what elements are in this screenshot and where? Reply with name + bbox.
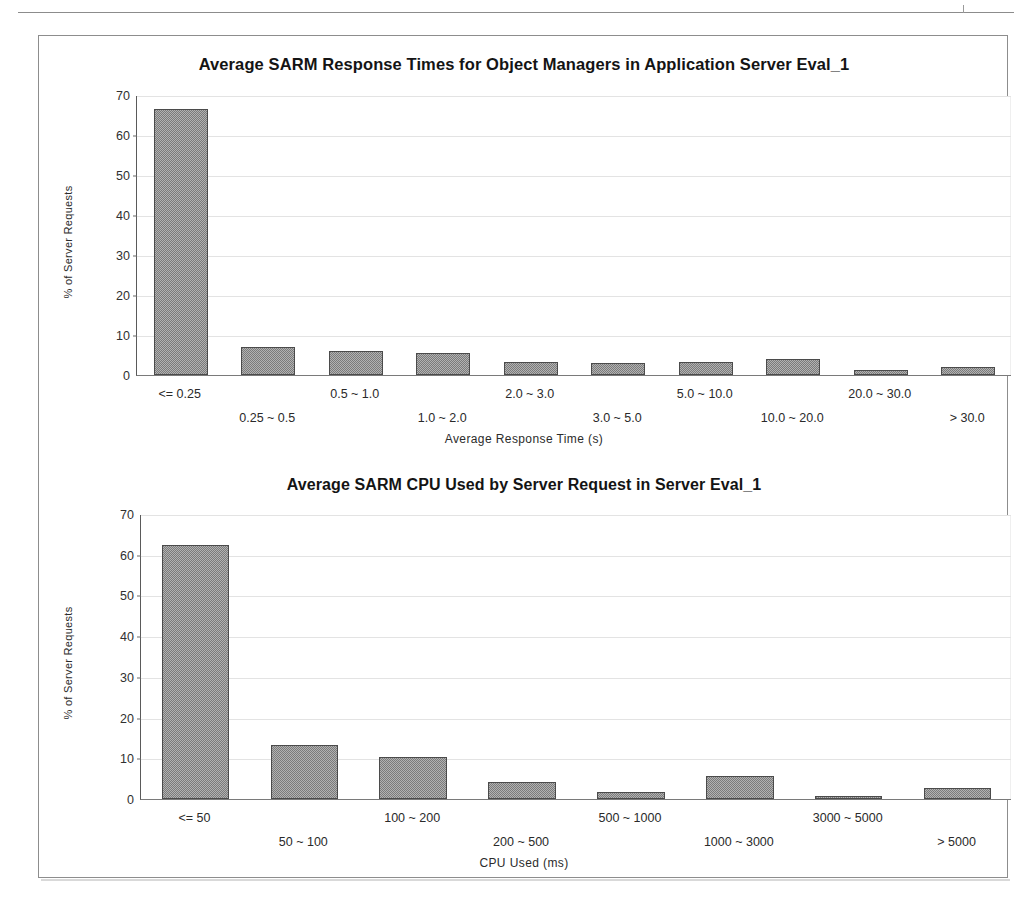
x-tick-label: 3000 ~ 5000 (813, 811, 883, 825)
y-tick-label: 10 (120, 752, 134, 766)
y-tick-mark (137, 718, 141, 719)
gridline (137, 256, 1011, 257)
bar (271, 745, 339, 799)
x-tick-label: 3.0 ~ 5.0 (593, 411, 642, 425)
chart-response-times: Average SARM Response Times for Object M… (39, 44, 1009, 454)
figure-frame: Average SARM Response Times for Object M… (38, 35, 1008, 878)
y-tick-mark (137, 555, 141, 556)
y-tick-mark (133, 256, 137, 257)
gridline (137, 296, 1011, 297)
gridline (137, 136, 1011, 137)
x-tick-label: 0.25 ~ 0.5 (239, 411, 295, 425)
bar (488, 782, 556, 800)
chart-cpu-used: Average SARM CPU Used by Server Request … (39, 456, 1009, 876)
x-tick-label: 10.0 ~ 20.0 (761, 411, 824, 425)
bar (924, 788, 992, 799)
y-tick-label: 0 (127, 793, 134, 807)
x-tick-label: 0.5 ~ 1.0 (330, 387, 379, 401)
gridline (141, 678, 1011, 679)
scan-top-rule (18, 12, 1014, 13)
x-tick-label: > 5000 (937, 835, 976, 849)
chart-title: Average SARM CPU Used by Server Request … (39, 476, 1009, 494)
y-tick-mark (137, 596, 141, 597)
gridline (141, 637, 1011, 638)
y-tick-label: 70 (120, 508, 134, 522)
plot-area: 010203040506070 (140, 515, 1011, 800)
x-axis-title: CPU Used (ms) (39, 856, 1009, 870)
plot-area: 010203040506070 (136, 96, 1011, 376)
bar (241, 347, 295, 375)
y-tick-label: 30 (116, 249, 130, 263)
y-tick-label: 40 (116, 209, 130, 223)
y-tick-mark (133, 296, 137, 297)
plot-right-border (1010, 515, 1011, 799)
x-tick-label: 1.0 ~ 2.0 (418, 411, 467, 425)
chart-title: Average SARM Response Times for Object M… (39, 55, 1009, 74)
bar (679, 362, 733, 375)
y-tick-label: 70 (116, 89, 130, 103)
bar (854, 370, 908, 375)
bar (379, 757, 447, 799)
scan-top-tick (963, 5, 964, 13)
y-tick-label: 20 (116, 289, 130, 303)
x-tick-label: 100 ~ 200 (384, 811, 440, 825)
x-tick-label: 50 ~ 100 (279, 835, 328, 849)
y-tick-mark (133, 336, 137, 337)
gridline (137, 216, 1011, 217)
y-tick-mark (137, 759, 141, 760)
plot-right-border (1010, 96, 1011, 375)
gridline (141, 719, 1011, 720)
bar (154, 109, 208, 375)
x-tick-label: <= 0.25 (159, 387, 201, 401)
x-axis-title: Average Response Time (s) (39, 432, 1009, 446)
x-tick-label: 1000 ~ 3000 (704, 835, 774, 849)
gridline (137, 96, 1011, 97)
bar (591, 363, 645, 375)
y-tick-label: 40 (120, 630, 134, 644)
y-tick-mark (133, 176, 137, 177)
y-tick-label: 0 (123, 369, 130, 383)
y-tick-label: 60 (120, 549, 134, 563)
y-tick-label: 20 (120, 712, 134, 726)
x-tick-label: > 30.0 (950, 411, 985, 425)
bar (504, 362, 558, 375)
gridline (137, 336, 1011, 337)
bar (815, 796, 883, 799)
bar (941, 367, 995, 375)
bar (706, 776, 774, 799)
y-tick-label: 10 (116, 329, 130, 343)
y-tick-label: 30 (120, 671, 134, 685)
y-tick-mark (133, 216, 137, 217)
gridline (141, 515, 1011, 516)
bar (329, 351, 383, 375)
y-tick-label: 50 (120, 589, 134, 603)
bar (162, 545, 230, 799)
y-axis-title: % of Server Requests (62, 607, 74, 720)
x-tick-label: 5.0 ~ 10.0 (677, 387, 733, 401)
x-tick-label: 2.0 ~ 3.0 (505, 387, 554, 401)
bar (597, 792, 665, 799)
y-tick-mark (137, 637, 141, 638)
y-tick-label: 50 (116, 169, 130, 183)
y-tick-label: 60 (116, 129, 130, 143)
bar (416, 353, 470, 375)
gridline (141, 596, 1011, 597)
x-tick-label: 500 ~ 1000 (598, 811, 661, 825)
gridline (137, 176, 1011, 177)
x-tick-label: <= 50 (178, 811, 210, 825)
x-tick-label: 20.0 ~ 30.0 (848, 387, 911, 401)
y-tick-mark (137, 677, 141, 678)
y-tick-mark (133, 136, 137, 137)
gridline (141, 556, 1011, 557)
x-tick-label: 200 ~ 500 (493, 835, 549, 849)
bar (766, 359, 820, 375)
y-axis-title: % of Server Requests (62, 186, 74, 299)
